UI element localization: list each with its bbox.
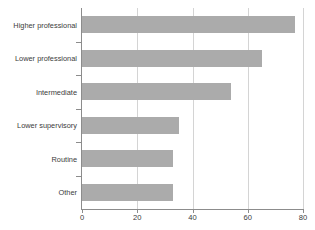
bar-row: [82, 109, 179, 143]
bar: [82, 16, 295, 33]
bar: [82, 83, 231, 100]
bar: [82, 117, 179, 134]
x-tick-label: 40: [183, 214, 203, 222]
bar-row: [82, 8, 295, 42]
bar-row: [82, 75, 231, 109]
x-tick-label: 80: [293, 214, 313, 222]
y-axis-tick: [76, 75, 81, 76]
y-axis-tick: [76, 42, 81, 43]
category-label: Higher professional: [13, 22, 77, 29]
y-axis-tick: [76, 142, 81, 143]
category-label: Intermediate: [36, 89, 77, 96]
gridline: [303, 8, 304, 209]
y-axis-tick: [76, 109, 81, 110]
bar-chart: Higher professional Lower professional I…: [0, 0, 315, 230]
bar: [82, 50, 262, 67]
bar-row: [82, 42, 262, 76]
category-label: Routine: [52, 156, 77, 163]
bar-row: [82, 176, 173, 210]
x-tick-label: 60: [238, 214, 258, 222]
x-tick-label: 20: [127, 214, 147, 222]
bar-row: [82, 142, 173, 176]
category-label: Other: [59, 189, 77, 196]
x-tick-label: 0: [72, 214, 92, 222]
bar: [82, 150, 173, 167]
category-label: Lower professional: [15, 55, 77, 62]
category-label: Lower supervisory: [17, 122, 77, 129]
y-axis-tick: [76, 176, 81, 177]
bar: [82, 184, 173, 201]
